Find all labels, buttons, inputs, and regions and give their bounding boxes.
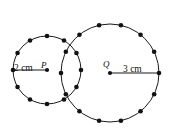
right-circle-group: [59, 23, 162, 123]
figure-container: 2 cm P Q 3 cm: [0, 0, 173, 132]
right-center-dot: [108, 71, 112, 75]
boundary-point-dot: [62, 38, 67, 43]
boundary-point-dot: [138, 109, 143, 114]
boundary-point-dot: [97, 118, 102, 123]
boundary-point-dot: [28, 97, 33, 102]
boundary-point-dot: [64, 92, 69, 97]
right-radius-label: 3 cm: [123, 65, 142, 75]
boundary-point-dot: [74, 85, 79, 90]
boundary-point-dot: [119, 118, 124, 123]
boundary-point-dot: [97, 23, 102, 28]
boundary-point-dot: [119, 23, 124, 28]
boundary-point-dot: [138, 32, 143, 37]
boundary-point-dot: [152, 49, 157, 54]
boundary-point-dot: [59, 71, 64, 76]
boundary-point-dot: [64, 49, 69, 54]
left-radius-label: 2 cm: [14, 64, 33, 74]
boundary-point-dot: [77, 32, 82, 37]
boundary-point-dot: [45, 34, 50, 39]
boundary-point-dot: [74, 51, 79, 56]
boundary-point-dot: [152, 92, 157, 97]
boundary-point-dot: [157, 71, 162, 76]
boundary-point-dot: [28, 38, 33, 43]
boundary-point-dot: [79, 68, 84, 73]
boundary-point-dot: [15, 85, 20, 90]
left-center-label: P: [41, 61, 47, 70]
right-center-label: Q: [103, 60, 110, 69]
boundary-point-dot: [45, 102, 50, 107]
boundary-point-dot: [15, 51, 20, 56]
boundary-point-dot: [62, 97, 67, 102]
boundary-point-dot: [77, 109, 82, 114]
